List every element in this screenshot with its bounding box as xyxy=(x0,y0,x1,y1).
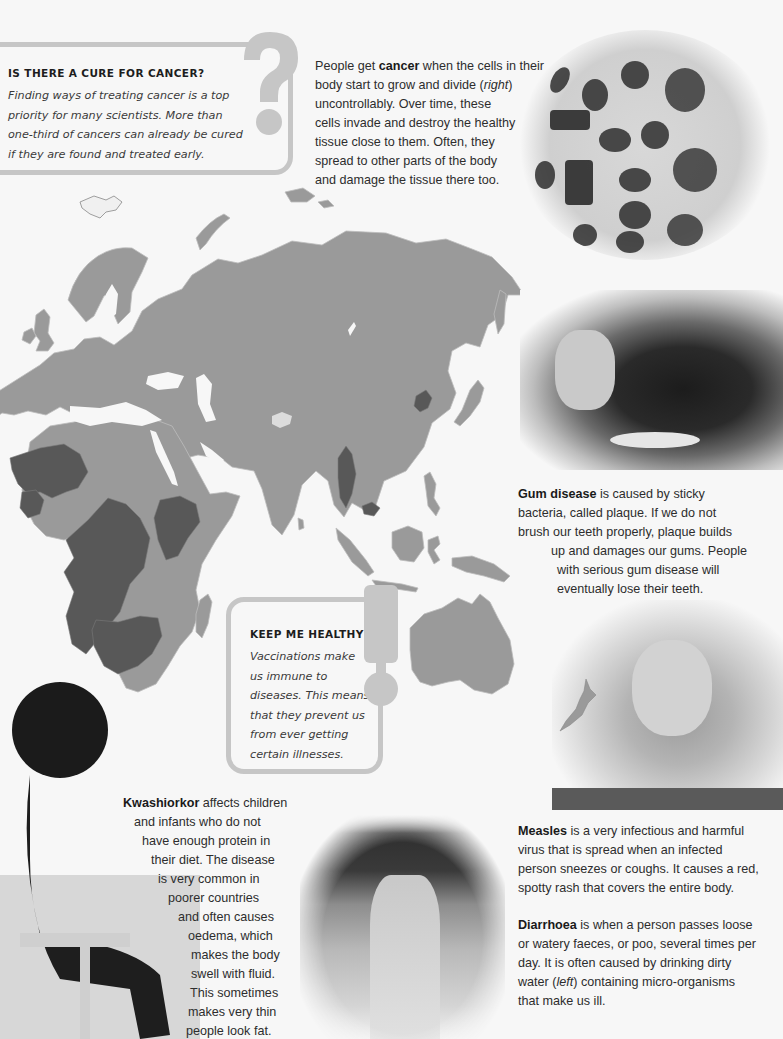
map-japan xyxy=(454,380,484,426)
health-box-title: KEEP ME HEALTHY! xyxy=(250,628,370,640)
cell-nuclei xyxy=(515,30,775,260)
cancer-term: cancer xyxy=(379,59,420,73)
map-sulawesi xyxy=(428,536,440,564)
measles-paragraph: Measles is a very infectious and harmful… xyxy=(518,822,759,898)
health-box-line: Vaccinations make xyxy=(250,647,370,667)
map-uk xyxy=(34,309,54,351)
cancer-paragraph: People get cancer when the cells in thei… xyxy=(315,57,544,190)
cure-box-text: Finding ways of treating cancer is a top… xyxy=(8,86,258,164)
cure-box-title: IS THERE A CURE FOR CANCER? xyxy=(8,67,258,79)
map-svalbard xyxy=(80,196,122,218)
map-sumatra xyxy=(336,528,374,576)
map-sri-lanka xyxy=(298,518,304,530)
map-novaya-zemlya xyxy=(196,214,230,250)
map-australia xyxy=(410,594,514,694)
diarrhoea-paragraph: Diarrhoea is when a person passes loose … xyxy=(518,916,756,1011)
kwashiorkor-paragraph: Kwashiorkor affects children and infants… xyxy=(123,794,287,1039)
map-borneo xyxy=(392,526,424,562)
cure-box-line: Finding ways of treating cancer is a top xyxy=(8,86,258,106)
cure-box-line: one-third of cancers can already be cure… xyxy=(8,125,258,145)
question-mark-icon xyxy=(238,30,302,138)
river-water xyxy=(370,875,440,1039)
gum-disease-paragraph: Gum disease is caused by sticky bacteria… xyxy=(518,485,747,599)
health-box-line: certain illnesses. xyxy=(250,745,370,765)
measles-term: Measles xyxy=(518,824,567,838)
map-new-zealand xyxy=(550,675,600,735)
map-arctic-islands xyxy=(285,188,334,208)
table-edge xyxy=(552,788,783,810)
exclamation-mark-icon xyxy=(360,583,402,708)
girl-face xyxy=(632,640,712,736)
health-box-line: that they prevent us xyxy=(250,706,370,726)
kwashiorkor-term: Kwashiorkor xyxy=(123,796,199,810)
mouth-dental-photo xyxy=(520,290,783,470)
cancer-cells-photo xyxy=(515,30,775,260)
map-new-guinea xyxy=(452,556,510,582)
health-box-line: us immune to xyxy=(250,667,370,687)
health-box-line: diseases. This means xyxy=(250,686,370,706)
health-box-text: Vaccinations make us immune to diseases.… xyxy=(250,647,370,764)
finger xyxy=(555,330,615,410)
cure-box-line: if they are found and treated early. xyxy=(8,145,258,165)
teeth xyxy=(610,432,700,448)
cure-box-line: priority for many scientists. More than xyxy=(8,106,258,126)
diarrhoea-term: Diarrhoea xyxy=(518,918,577,932)
health-box-line: from ever getting xyxy=(250,725,370,745)
map-philippines xyxy=(424,472,440,516)
dirty-river-photo xyxy=(300,815,505,1039)
gum-disease-term: Gum disease xyxy=(518,487,596,501)
